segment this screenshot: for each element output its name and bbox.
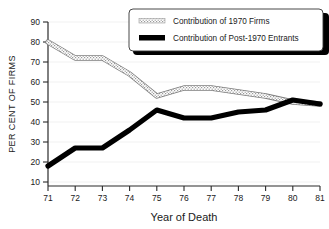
x-tick-label: 75 bbox=[152, 193, 162, 203]
y-tick-label: 30 bbox=[31, 137, 41, 147]
x-tick-label: 77 bbox=[206, 193, 216, 203]
x-tick-label: 78 bbox=[234, 193, 244, 203]
x-tick-label: 72 bbox=[70, 193, 80, 203]
legend: Contribution of 1970 Firms Contribution … bbox=[129, 9, 329, 55]
hatched-swatch-icon bbox=[139, 19, 165, 24]
x-tick-label: 71 bbox=[43, 193, 53, 203]
y-axis-title: PER CENT OF FIRMS bbox=[7, 55, 17, 153]
legend-label: Contribution of Post-1970 Entrants bbox=[173, 34, 299, 43]
x-tick-label: 81 bbox=[315, 193, 325, 203]
y-tick-label: 90 bbox=[31, 17, 41, 27]
y-tick-label: 20 bbox=[31, 157, 41, 167]
y-tick-label: 80 bbox=[31, 37, 41, 47]
legend-box bbox=[129, 9, 323, 51]
y-tick-label: 10 bbox=[31, 177, 41, 187]
x-tick-label: 79 bbox=[261, 193, 271, 203]
y-tick-labels: 90 80 70 60 50 40 30 20 10 bbox=[31, 17, 41, 187]
y-tick-label: 60 bbox=[31, 77, 41, 87]
x-axis-title: Year of Death bbox=[151, 211, 218, 223]
chart-canvas: 90 80 70 60 50 40 30 20 10 71 72 73 74 7… bbox=[0, 0, 329, 229]
y-tick-label: 70 bbox=[31, 57, 41, 67]
x-tick-label: 73 bbox=[98, 193, 108, 203]
legend-label: Contribution of 1970 Firms bbox=[173, 17, 269, 26]
x-tick-label: 80 bbox=[288, 193, 298, 203]
solid-swatch-icon bbox=[139, 35, 165, 41]
x-tick-label: 76 bbox=[179, 193, 189, 203]
line-chart: 90 80 70 60 50 40 30 20 10 71 72 73 74 7… bbox=[0, 0, 329, 229]
x-tick-label: 74 bbox=[125, 193, 135, 203]
y-tick-label: 50 bbox=[31, 97, 41, 107]
y-tick-label: 40 bbox=[31, 117, 41, 127]
